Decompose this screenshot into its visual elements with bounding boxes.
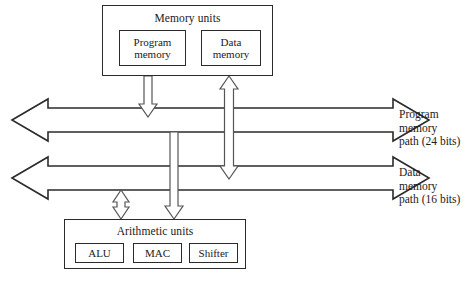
memory-units-block: Memory units Programmemory Datamemory bbox=[102, 5, 273, 76]
program-bus-arrow bbox=[12, 99, 429, 141]
data-bus-arrow bbox=[12, 157, 429, 199]
memory-units-title: Memory units bbox=[103, 12, 272, 24]
program-bus-label: Programmemorypath (24 bits) bbox=[399, 108, 460, 149]
data-bus-label: Datamemorypath (16 bits) bbox=[399, 166, 460, 207]
data-memory-unit: Datamemory bbox=[201, 30, 261, 66]
data-memory-label: Datamemory bbox=[213, 36, 250, 61]
mac-unit: MAC bbox=[133, 243, 182, 263]
alu-unit: ALU bbox=[75, 243, 124, 263]
data-bus-to-arithmetic-units-arrow bbox=[113, 190, 129, 219]
architecture-diagram: Memory units Programmemory Datamemory Ar… bbox=[0, 0, 471, 287]
program-memory-unit: Programmemory bbox=[119, 30, 186, 66]
shifter-unit: Shifter bbox=[189, 243, 238, 263]
arithmetic-units-title: Arithmetic units bbox=[65, 225, 245, 237]
arithmetic-units-block: Arithmetic units ALU MAC Shifter bbox=[64, 219, 246, 269]
program-memory-label: Programmemory bbox=[134, 36, 172, 61]
